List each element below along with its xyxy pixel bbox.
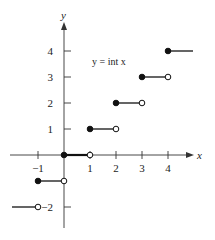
x-tick-label: 4 [165,162,171,174]
closed-endpoint-icon [61,152,67,158]
closed-endpoint-icon [87,126,93,132]
y-tick-label: 4 [48,45,54,57]
open-endpoint-icon [113,126,119,132]
y-axis-label: y [60,9,66,21]
closed-endpoint-icon [113,100,119,106]
y-tick-label: 3 [48,71,54,83]
step-function-chart: −112341234−2 y x y = int x [0,0,215,240]
chart-svg: −112341234−2 y x y = int x [0,0,215,240]
open-endpoint-icon [35,204,41,210]
x-tick-label: 3 [139,162,145,174]
x-tick-label: 2 [113,162,119,174]
y-axis-arrow-icon [61,22,67,30]
closed-endpoint-icon [165,48,171,54]
x-tick-label: 1 [87,162,93,174]
closed-endpoint-icon [35,178,41,184]
y-tick-label: 2 [48,97,54,109]
x-axis-arrow-icon [186,152,194,158]
closed-endpoint-icon [139,74,145,80]
y-tick-label: −2 [41,201,53,213]
open-endpoint-icon [165,74,171,80]
x-tick-label: −1 [32,162,44,174]
step-segments [12,48,193,210]
open-endpoint-icon [87,152,93,158]
open-endpoint-icon [61,178,67,184]
equation-label: y = int x [92,56,126,67]
open-endpoint-icon [139,100,145,106]
x-axis-label: x [196,149,202,161]
y-tick-label: 1 [48,123,54,135]
